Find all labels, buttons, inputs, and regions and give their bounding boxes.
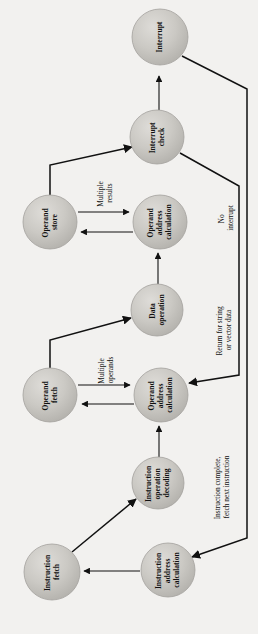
node-operand-store[interactable]: Operand store <box>23 195 77 249</box>
edge-label-no-interrupt: No interrupt <box>216 204 234 230</box>
node-operand-address-calculation-lower[interactable]: Operand address calculation <box>134 368 188 422</box>
edge-label-multiple-results: Multiple results <box>95 179 113 206</box>
node-operand-address-calculation-upper-label: Operand address calculation <box>146 204 173 240</box>
edge-operand-store-to-interrupt-check <box>50 147 132 195</box>
edge-label-multiple-operands: Multiple operands <box>96 356 114 383</box>
node-operand-address-calculation-upper[interactable]: Operand address calculation <box>133 195 187 249</box>
edge-label-instruction-complete-fetch-next: Instruction complete, fetch next instruc… <box>212 455 230 520</box>
node-data-operation[interactable]: Data operation <box>131 284 183 336</box>
node-instruction-fetch[interactable]: Instruction fetch <box>24 544 80 600</box>
node-instruction-operation-decoding[interactable]: Instruction operation decoding <box>132 457 184 509</box>
node-instruction-operation-decoding-label: Instruction operation decoding <box>144 464 171 502</box>
node-operand-fetch[interactable]: Operand fetch <box>23 368 77 422</box>
instruction-cycle-state-diagram: Interrupt Interrupt check Operand store <box>0 0 258 634</box>
diagram-canvas: Interrupt Interrupt check Operand store <box>0 0 258 634</box>
node-operand-address-calculation-lower-label: Operand address calculation <box>147 377 174 413</box>
edge-operand-fetch-to-data-operation <box>50 318 131 368</box>
node-instruction-address-calculation[interactable]: Instruction address calculation <box>141 543 195 597</box>
node-interrupt[interactable]: Interrupt <box>132 9 188 65</box>
edge-label-return-for-string-or-vector-data: Return for string or vector data <box>214 304 232 355</box>
node-interrupt-label: Interrupt <box>155 21 164 52</box>
edge-instr-fetch-to-decoding <box>72 499 136 552</box>
node-interrupt-check[interactable]: Interrupt check <box>130 110 184 164</box>
node-layer: Interrupt Interrupt check Operand store <box>23 9 195 600</box>
